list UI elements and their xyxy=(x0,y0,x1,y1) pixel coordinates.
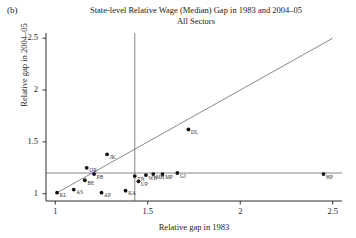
y-tick-label: 1.5 xyxy=(8,136,38,146)
data-point-label: MH xyxy=(156,174,165,180)
data-point-label: KL xyxy=(60,192,67,198)
data-point[interactable] xyxy=(322,172,326,176)
x-tick-label: 2.5 xyxy=(318,206,348,216)
data-point[interactable] xyxy=(133,174,137,178)
data-point-label: BE xyxy=(87,180,94,186)
data-point-label: GJ xyxy=(180,173,186,179)
x-tick-label: 1 xyxy=(40,206,70,216)
data-point-label: OR xyxy=(89,167,96,173)
data-point-label: HP xyxy=(326,174,333,180)
y-axis-label: Relative gap in 2004–05 xyxy=(19,0,29,145)
data-point-label: AS xyxy=(76,189,83,195)
data-point[interactable] xyxy=(175,171,179,175)
data-point-label: MP xyxy=(165,174,173,180)
data-point[interactable] xyxy=(83,178,87,182)
y-tick-label: 2 xyxy=(8,84,38,94)
data-point[interactable] xyxy=(55,191,59,195)
data-point-label: KA xyxy=(128,190,136,196)
y-tick-label: 2.5 xyxy=(8,32,38,42)
data-point-label: AP xyxy=(104,192,111,198)
data-point[interactable] xyxy=(187,128,191,132)
data-point[interactable] xyxy=(105,152,109,156)
data-point[interactable] xyxy=(72,188,76,192)
x-axis-label: Relative gap in 1983 xyxy=(46,222,342,232)
data-point-label: UP xyxy=(141,181,148,187)
x-tick-label: 1.5 xyxy=(133,206,163,216)
y-tick-label: 1 xyxy=(8,188,38,198)
data-point[interactable] xyxy=(85,166,89,170)
data-point[interactable] xyxy=(100,191,104,195)
figure-container: (b) State-level Relative Wage (Median) G… xyxy=(0,0,356,238)
plot-canvas xyxy=(0,0,356,238)
data-point[interactable] xyxy=(124,189,128,193)
x-tick-label: 2 xyxy=(225,206,255,216)
data-point-label: DL xyxy=(191,129,198,135)
data-point-label: JK xyxy=(110,154,116,160)
data-point-label: PB xyxy=(97,174,104,180)
